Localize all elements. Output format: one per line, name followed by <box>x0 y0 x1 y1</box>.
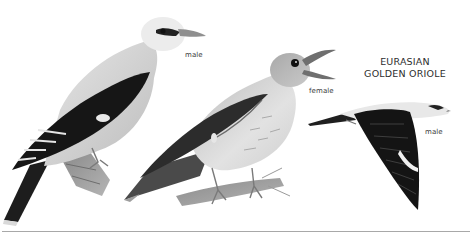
bottom-rule-divider <box>2 231 470 232</box>
flying-male-oriole <box>308 102 451 210</box>
perched-male-oriole <box>3 17 206 226</box>
plate-title: EURASIAN GOLDEN ORIOLE <box>355 56 455 80</box>
figure-label-female: female <box>309 87 334 95</box>
figure-label-perched-male: male <box>185 51 203 59</box>
figure-label-flying-male: male <box>425 128 443 136</box>
plate-title-line1: EURASIAN <box>355 56 455 68</box>
illustration-plate: male female male EURASIAN GOLDEN ORIOLE <box>0 0 472 241</box>
plate-title-line2: GOLDEN ORIOLE <box>355 68 455 80</box>
perched-female-oriole <box>124 50 336 206</box>
bird-illustrations <box>0 0 472 241</box>
